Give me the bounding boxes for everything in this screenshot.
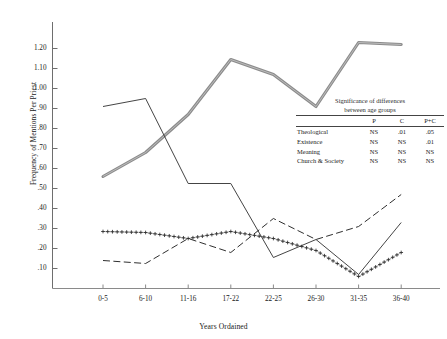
y-tick-label: .40 <box>13 204 47 212</box>
sig-cell-c: NS <box>388 156 416 166</box>
y-tick-marks <box>53 49 58 269</box>
sig-cell-p: NS <box>360 137 388 147</box>
sig-cell-p: NS <box>360 156 388 166</box>
sig-cell-c: NS <box>388 147 416 157</box>
y-tick-label: .70 <box>13 144 47 152</box>
sig-cell-pc: NS <box>416 156 444 166</box>
table-row: Existence NS NS .01 <box>296 137 444 147</box>
y-tick-label: .80 <box>13 124 47 132</box>
sig-col-blank <box>296 116 360 127</box>
y-tick-label: 1.00 <box>13 84 47 92</box>
sig-cell-p: NS <box>360 127 388 137</box>
y-tick-label: .60 <box>13 164 47 172</box>
sig-cell-c: .01 <box>388 127 416 137</box>
table-row: Church & Society NS NS NS <box>296 156 444 166</box>
significance-table: Significance of differences between age … <box>296 96 444 166</box>
x-tick-label: 26-30 <box>294 295 338 303</box>
y-tick-label: .90 <box>13 104 47 112</box>
plot-canvas <box>0 0 447 339</box>
table-header-row: P C P+C <box>296 116 444 127</box>
chart-figure: Frequency of Mentions Per Priest Years O… <box>0 0 447 339</box>
x-tick-label: 11-16 <box>166 295 210 303</box>
y-tick-label: 1.10 <box>13 64 47 72</box>
y-tick-label: .10 <box>13 264 47 272</box>
y-tick-label: 1.20 <box>13 44 47 52</box>
sig-cell-c: NS <box>388 137 416 147</box>
sig-row-label: Meaning <box>296 147 360 157</box>
sig-row-label: Theological <box>296 127 360 137</box>
sig-col-c: C <box>388 116 416 127</box>
sig-col-pc: P+C <box>416 116 444 127</box>
x-tick-label: 0-5 <box>81 295 125 303</box>
x-tick-marks <box>103 285 401 289</box>
x-tick-label: 22-25 <box>251 295 295 303</box>
sig-cell-pc: .05 <box>416 127 444 137</box>
y-tick-label: .20 <box>13 244 47 252</box>
x-tick-label: 6-10 <box>124 295 168 303</box>
sig-cell-pc: .01 <box>416 137 444 147</box>
sig-cell-pc: NS <box>416 147 444 157</box>
x-axis-label: Years Ordained <box>0 322 447 331</box>
series-church-society <box>101 230 403 279</box>
x-tick-label: 36-40 <box>379 295 423 303</box>
table-row: Meaning NS NS NS <box>296 147 444 157</box>
table-row: Theological NS .01 .05 <box>296 127 444 137</box>
x-tick-label: 31-35 <box>337 295 381 303</box>
sig-row-label: Church & Society <box>296 156 360 166</box>
sig-row-label: Existence <box>296 137 360 147</box>
sig-caption-line-1: Significance of differences <box>296 96 444 105</box>
sig-col-p: P <box>360 116 388 127</box>
y-tick-label: .50 <box>13 184 47 192</box>
y-tick-label: .30 <box>13 224 47 232</box>
sig-caption-line-2: between age groups <box>296 105 444 114</box>
sig-table-grid: P C P+C Theological NS .01 .05 Existence… <box>296 115 444 166</box>
x-tick-label: 17-22 <box>209 295 253 303</box>
series-meaning <box>103 195 401 264</box>
sig-cell-p: NS <box>360 147 388 157</box>
